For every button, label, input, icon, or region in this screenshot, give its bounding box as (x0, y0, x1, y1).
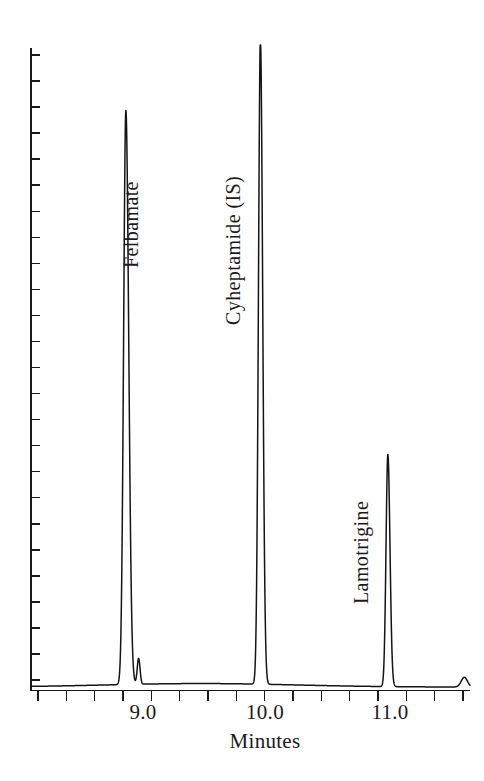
x-tick-label-11: 11.0 (371, 700, 408, 725)
x-tick-label-10: 10.0 (246, 700, 284, 725)
x-tick-label-9: 9.0 (129, 700, 156, 725)
y-axis-ticks (31, 55, 40, 680)
chromatogram-figure: 9.0 10.0 11.0 Minutes Felbamate Cyheptam… (0, 0, 484, 781)
x-axis-title: Minutes (230, 729, 301, 754)
peak-label-felbamate: Felbamate (120, 181, 143, 268)
chromatogram-plot (0, 0, 484, 781)
y-axis-group (31, 48, 40, 691)
peak-label-lamotrigine: Lamotrigine (350, 501, 373, 604)
signal-trace (31, 45, 470, 687)
peak-label-cyheptamide: Cyheptamide (IS) (222, 176, 245, 325)
